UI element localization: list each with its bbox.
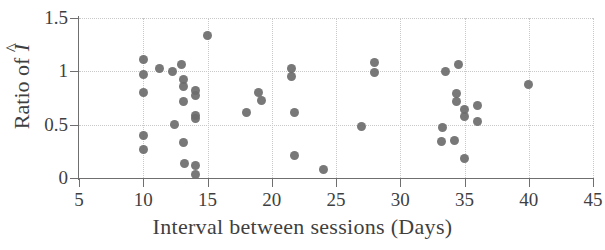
data-point bbox=[139, 55, 148, 64]
data-point bbox=[139, 145, 148, 154]
data-point bbox=[180, 159, 189, 168]
data-point bbox=[168, 67, 177, 76]
data-point bbox=[473, 101, 482, 110]
x-axis-tick bbox=[529, 178, 530, 187]
y-axis-title-prefix: Ratio of bbox=[9, 52, 34, 129]
data-point bbox=[191, 114, 200, 123]
x-axis-tick-label: 15 bbox=[178, 190, 238, 209]
x-axis-title: Interval between sessions (Days) bbox=[0, 215, 605, 239]
data-point bbox=[460, 154, 469, 163]
y-axis-tick bbox=[70, 125, 78, 126]
gridline-vertical bbox=[336, 18, 337, 178]
data-point bbox=[287, 72, 296, 81]
data-point bbox=[437, 137, 446, 146]
gridline-vertical bbox=[529, 18, 530, 178]
x-axis-tick-label: 5 bbox=[49, 190, 109, 209]
x-axis-tick bbox=[336, 178, 337, 187]
y-axis-title-symbol: ^I bbox=[10, 43, 34, 52]
gridline-horizontal bbox=[79, 125, 593, 126]
x-axis-tick-label: 40 bbox=[499, 190, 559, 209]
data-point bbox=[473, 117, 482, 126]
data-point bbox=[139, 131, 148, 140]
data-point bbox=[242, 108, 251, 117]
data-point bbox=[203, 31, 212, 40]
data-point bbox=[191, 161, 200, 170]
data-point bbox=[179, 97, 188, 106]
x-axis-tick bbox=[272, 178, 273, 187]
data-point bbox=[179, 138, 188, 147]
x-axis-tick bbox=[208, 178, 209, 187]
x-axis-tick bbox=[143, 178, 144, 187]
x-axis-tick bbox=[79, 178, 80, 187]
data-point bbox=[177, 60, 186, 69]
x-axis-tick-label: 20 bbox=[242, 190, 302, 209]
x-axis-tick-label: 25 bbox=[306, 190, 366, 209]
gridline-vertical bbox=[400, 18, 401, 178]
data-point bbox=[179, 82, 188, 91]
x-axis-tick bbox=[593, 178, 594, 187]
data-point bbox=[524, 80, 533, 89]
data-point bbox=[170, 120, 179, 129]
data-point bbox=[370, 58, 379, 67]
data-point bbox=[257, 96, 266, 105]
y-axis-tick bbox=[70, 18, 78, 19]
data-point bbox=[454, 60, 463, 69]
x-axis-tick-label: 45 bbox=[563, 190, 605, 209]
x-axis-tick-label: 35 bbox=[435, 190, 495, 209]
y-axis-line bbox=[78, 16, 79, 180]
scatter-plot-figure: 5101520253035404500.511.5 Interval betwe… bbox=[0, 0, 605, 250]
x-axis-tick-label: 10 bbox=[113, 190, 173, 209]
y-axis-title: Ratio of ^I bbox=[10, 0, 34, 186]
data-point bbox=[441, 67, 450, 76]
data-point bbox=[357, 122, 366, 131]
gridline-horizontal bbox=[79, 18, 593, 19]
data-point bbox=[370, 68, 379, 77]
data-point bbox=[450, 136, 459, 145]
data-point bbox=[438, 123, 447, 132]
data-point bbox=[191, 91, 200, 100]
x-axis-tick-label: 30 bbox=[370, 190, 430, 209]
data-point bbox=[290, 108, 299, 117]
plot-area bbox=[79, 18, 593, 178]
x-axis-tick bbox=[400, 178, 401, 187]
y-axis-tick bbox=[70, 71, 78, 72]
gridline-vertical bbox=[272, 18, 273, 178]
data-point bbox=[460, 112, 469, 121]
circumflex-accent-icon: ^ bbox=[1, 44, 25, 53]
y-axis-tick bbox=[70, 178, 78, 179]
gridline-vertical bbox=[143, 18, 144, 178]
data-point bbox=[319, 165, 328, 174]
data-point bbox=[139, 88, 148, 97]
data-point bbox=[452, 97, 461, 106]
data-point bbox=[290, 151, 299, 160]
data-point bbox=[139, 70, 148, 79]
gridline-vertical bbox=[593, 18, 594, 178]
x-axis-tick bbox=[465, 178, 466, 187]
gridline-vertical bbox=[208, 18, 209, 178]
